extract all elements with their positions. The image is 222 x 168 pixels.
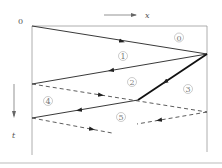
dashed-wave-2-4 <box>32 84 207 112</box>
t-axis-arrowhead-icon <box>12 111 16 118</box>
t-axis-label: t <box>12 131 16 140</box>
region-label-4: 4 <box>44 97 53 107</box>
region-label-3: 3 <box>184 85 193 95</box>
region-label-0: 0 <box>175 33 184 43</box>
origin-label: 0 <box>18 17 23 26</box>
svg-text:4: 4 <box>45 97 50 106</box>
svg-text:5: 5 <box>118 113 123 122</box>
dashed-wave-3-5 <box>137 112 207 124</box>
region-label-5: 5 <box>117 113 126 123</box>
svg-text:0: 0 <box>176 34 181 43</box>
svg-text:2: 2 <box>129 78 134 87</box>
svg-text:3: 3 <box>185 85 190 94</box>
x-axis-label: x <box>145 11 150 20</box>
wave-diagram: 0 x t 0 1 2 3 4 5 <box>0 0 222 168</box>
svg-text:1: 1 <box>120 52 125 61</box>
dashed-wave-5 <box>32 118 112 133</box>
x-axis-arrowhead-icon <box>131 13 137 17</box>
shock-2-3 <box>138 54 207 100</box>
region-label-1: 1 <box>119 52 128 62</box>
region-label-2: 2 <box>128 78 137 88</box>
